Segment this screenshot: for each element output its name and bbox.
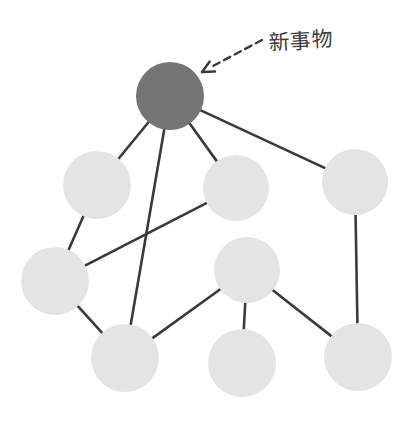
annotation-arrow-shaft — [211, 40, 262, 67]
graph-edge — [356, 212, 358, 326]
graph-node[interactable] — [324, 323, 392, 391]
graph-node[interactable] — [214, 237, 280, 303]
graph-edge — [271, 289, 334, 338]
annotation-label-new-thing: 新事物 — [267, 22, 334, 55]
annotation-arrow-head-2 — [202, 71, 215, 72]
graph-node[interactable] — [63, 151, 131, 219]
annotation-arrow-layer — [202, 40, 262, 72]
graph-node[interactable] — [21, 247, 89, 315]
graph-edge — [150, 288, 223, 340]
network-graph — [0, 0, 414, 423]
graph-node[interactable] — [322, 149, 388, 215]
graph-node[interactable] — [208, 329, 276, 397]
graph-edge — [76, 304, 104, 335]
graph-edge — [244, 300, 246, 332]
edge-layer — [67, 109, 357, 340]
graph-node-highlighted[interactable] — [136, 62, 204, 130]
graph-node[interactable] — [203, 155, 269, 221]
annotation-arrow-head-1 — [202, 62, 210, 72]
graph-edge — [117, 120, 151, 161]
graph-edge — [188, 121, 218, 163]
graph-edge — [67, 213, 84, 252]
diagram-canvas: 新事物 — [0, 0, 414, 423]
graph-node[interactable] — [91, 324, 159, 392]
